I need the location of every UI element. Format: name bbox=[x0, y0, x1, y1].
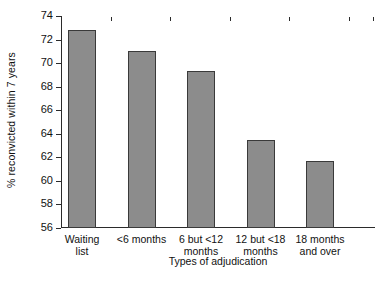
bar bbox=[128, 51, 156, 228]
y-axis-tick-label: 62 bbox=[41, 150, 53, 162]
x-axis-category-label: Waitinglist bbox=[52, 234, 112, 257]
y-axis-tick-label: 66 bbox=[41, 103, 53, 115]
y-axis-tick-label: 74 bbox=[41, 9, 53, 21]
x-axis-tick bbox=[170, 17, 171, 21]
x-axis-title: Types of adjudication bbox=[61, 255, 375, 267]
bar bbox=[187, 71, 215, 228]
y-axis-line bbox=[61, 16, 62, 228]
x-axis-category-label: <6 months bbox=[112, 234, 172, 246]
x-axis-category-label: 12 but <18months bbox=[231, 234, 291, 257]
y-axis-tick-label: 68 bbox=[41, 80, 53, 92]
bar bbox=[68, 30, 96, 228]
x-axis-tick bbox=[289, 17, 290, 21]
y-axis-tick-label: 58 bbox=[41, 197, 53, 209]
y-axis-tick-label: 60 bbox=[41, 174, 53, 186]
y-axis-tick: 74 bbox=[56, 16, 61, 17]
y-axis-tick: 60 bbox=[56, 181, 61, 182]
x-axis-category-label: 6 but <12months bbox=[171, 234, 231, 257]
y-axis-tick: 64 bbox=[56, 134, 61, 135]
y-axis-tick: 70 bbox=[56, 63, 61, 64]
y-axis-tick-label: 56 bbox=[41, 221, 53, 233]
x-axis-tick bbox=[349, 17, 350, 21]
bar bbox=[247, 140, 275, 228]
y-axis-tick: 68 bbox=[56, 87, 61, 88]
y-axis-label: % reconvicted within 7 years bbox=[5, 52, 17, 188]
x-axis-category-label-line: 12 but <18 bbox=[231, 234, 291, 246]
y-axis-label-container: % reconvicted within 7 years bbox=[0, 0, 22, 240]
x-axis-end-tick bbox=[373, 17, 374, 21]
y-axis-tick: 56 bbox=[56, 228, 61, 229]
x-axis-tick bbox=[230, 17, 231, 21]
y-axis-tick: 72 bbox=[56, 40, 61, 41]
bar-chart: % reconvicted within 7 years 74727068666… bbox=[0, 0, 388, 287]
bar bbox=[306, 161, 334, 228]
x-axis-category-label-line: Waiting bbox=[52, 234, 112, 246]
y-axis-tick: 66 bbox=[56, 110, 61, 111]
plot-area: 74727068666462605856 Waitinglist<6 month… bbox=[61, 16, 375, 228]
y-axis-tick-label: 64 bbox=[41, 127, 53, 139]
x-axis-category-label-line: 18 months bbox=[290, 234, 350, 246]
x-axis-tick bbox=[111, 17, 112, 21]
x-axis-category-label: 18 monthsand over bbox=[290, 234, 350, 257]
x-axis-category-label-line: <6 months bbox=[112, 234, 172, 246]
y-axis-tick-label: 72 bbox=[41, 33, 53, 45]
y-axis-tick: 62 bbox=[56, 157, 61, 158]
x-axis-category-label-line: 6 but <12 bbox=[171, 234, 231, 246]
y-axis-tick: 58 bbox=[56, 204, 61, 205]
y-axis-tick-label: 70 bbox=[41, 56, 53, 68]
